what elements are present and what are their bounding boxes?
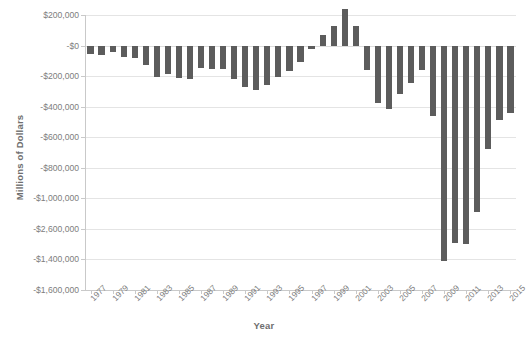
x-tick-label: 1995 <box>286 283 306 303</box>
y-tick-mark <box>81 229 86 230</box>
x-axis-title: Year <box>0 320 528 331</box>
bar <box>143 46 149 66</box>
y-tick-label: -$400,000 <box>40 102 79 112</box>
bar <box>408 46 414 84</box>
bar <box>496 46 502 120</box>
y-tick-mark <box>81 76 86 77</box>
bar <box>286 46 292 71</box>
y-tick-label: $200,000 <box>43 10 79 20</box>
bar <box>242 46 248 87</box>
bar <box>209 46 215 70</box>
bar <box>165 46 171 74</box>
bar <box>275 46 281 77</box>
bar <box>474 46 480 212</box>
x-tick-label: 2011 <box>463 283 483 303</box>
x-tick-label: 1987 <box>198 283 218 303</box>
plot-area: $200,000-$0-$200,000-$400,000-$600,000-$… <box>85 15 516 290</box>
bar <box>87 46 93 54</box>
bar <box>353 26 359 46</box>
x-tick-label: 1981 <box>132 283 152 303</box>
bar <box>308 46 314 49</box>
bar <box>253 46 259 90</box>
bar <box>331 26 337 45</box>
y-tick-label: -$2,600,000 <box>33 224 79 234</box>
gridline <box>85 259 516 260</box>
y-tick-label: -$800,000 <box>40 163 79 173</box>
bar-chart: Millions of Dollars Year $200,000-$0-$20… <box>0 0 528 343</box>
bar <box>154 46 160 78</box>
bar <box>297 46 303 62</box>
x-tick-label: 1983 <box>154 283 174 303</box>
y-tick-label: -$1,600,000 <box>33 285 79 295</box>
bar <box>98 46 104 55</box>
y-tick-label: -$1,400,000 <box>33 254 79 264</box>
x-tick-label: 2007 <box>419 283 439 303</box>
x-tick-label: 2013 <box>485 283 505 303</box>
x-tick-label: 1977 <box>88 283 108 303</box>
y-axis-line <box>85 15 86 291</box>
y-tick-mark <box>81 15 86 16</box>
y-tick-mark <box>81 290 86 291</box>
gridline <box>85 15 516 16</box>
y-tick-mark <box>81 168 86 169</box>
x-tick-label: 2009 <box>441 283 461 303</box>
bar <box>187 46 193 80</box>
bar <box>121 46 127 57</box>
x-tick-label: 2005 <box>397 283 417 303</box>
x-tick-label: 1989 <box>220 283 240 303</box>
x-tick-label: 2001 <box>353 283 373 303</box>
bar <box>397 46 403 95</box>
bar <box>430 46 436 116</box>
y-tick-mark <box>81 259 86 260</box>
bar <box>452 46 458 244</box>
y-tick-mark <box>81 198 86 199</box>
bar <box>364 46 370 70</box>
bar <box>507 46 513 113</box>
x-tick-label: 1997 <box>309 283 329 303</box>
y-tick-label: -$200,000 <box>40 71 79 81</box>
bar <box>198 46 204 69</box>
bar <box>320 35 326 46</box>
bar <box>176 46 182 78</box>
bar <box>231 46 237 80</box>
x-tick-label: 1999 <box>331 283 351 303</box>
bar <box>132 46 138 58</box>
bar <box>342 9 348 45</box>
bar <box>441 46 447 262</box>
x-tick-label: 1985 <box>176 283 196 303</box>
y-tick-label: -$1,000,000 <box>33 193 79 203</box>
x-tick-label: 1991 <box>242 283 262 303</box>
bar <box>463 46 469 245</box>
bar <box>419 46 425 71</box>
bar <box>110 46 116 52</box>
x-tick-label: 2015 <box>507 283 527 303</box>
bar <box>386 46 392 109</box>
bar <box>485 46 491 150</box>
x-tick-label: 1979 <box>110 283 130 303</box>
bar <box>375 46 381 104</box>
y-tick-mark <box>81 46 86 47</box>
y-tick-label: -$600,000 <box>40 132 79 142</box>
bar <box>220 46 226 69</box>
x-tick-label: 2003 <box>375 283 395 303</box>
y-tick-mark <box>81 107 86 108</box>
x-tick-label: 1993 <box>264 283 284 303</box>
bar <box>264 46 270 85</box>
y-tick-mark <box>81 137 86 138</box>
y-tick-label: -$0 <box>67 41 79 51</box>
y-axis-title: Millions of Dollars <box>14 93 25 223</box>
